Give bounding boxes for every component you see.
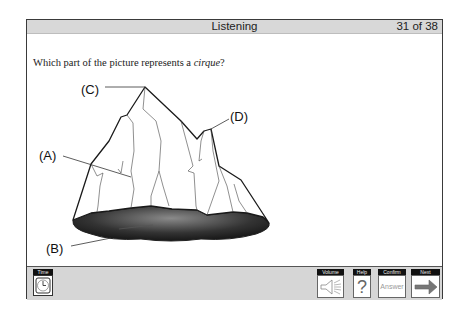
answer-button[interactable]: Answer [378,275,406,298]
label-c[interactable]: (C) [81,82,145,97]
label-d[interactable]: (D) [211,109,248,129]
test-window: Listening 31 of 38 Which part of the pic… [26,19,443,299]
help-button[interactable]: Help ? [353,269,371,298]
label-b[interactable]: (B) [46,238,111,256]
confirm-button[interactable]: Confirm Answer [378,269,406,298]
svg-text:(B): (B) [46,241,63,256]
speaker-icon[interactable] [317,275,344,298]
volume-button[interactable]: Volume [317,269,344,298]
clock-icon[interactable] [33,275,53,296]
svg-text:(A): (A) [39,148,56,163]
question-mark-icon[interactable]: ? [353,275,371,298]
next-button[interactable]: Next [411,269,440,298]
answer-text: Answer [380,283,403,290]
right-arrow-icon[interactable] [411,275,440,298]
svg-text:(C): (C) [81,82,99,97]
mountain-peak[interactable] [73,87,269,223]
mountain-figure: (C) (D) (A) (B) [27,20,442,266]
bottom-toolbar: Time Volume Help [27,266,442,300]
time-widget[interactable]: Time [33,269,53,296]
svg-text:(D): (D) [230,109,248,124]
